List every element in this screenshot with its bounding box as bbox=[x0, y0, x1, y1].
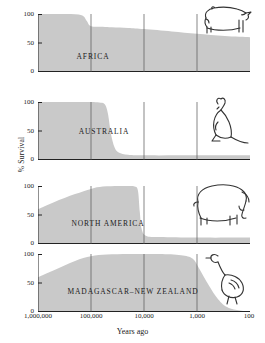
ytick-label-50: 50 bbox=[12, 127, 34, 135]
xtick-label-10000: 10,000 bbox=[134, 312, 153, 320]
ytick-label-0: 0 bbox=[12, 239, 34, 247]
ytick-label-100: 100 bbox=[12, 250, 34, 258]
ytick-label-100: 100 bbox=[12, 10, 34, 18]
xtick-label-1000: 1,000 bbox=[189, 312, 205, 320]
region-label-australia: AUSTRALIA bbox=[79, 127, 130, 136]
xtick-label-100: 100 bbox=[244, 312, 255, 320]
xtick-label-100000: 100,000 bbox=[80, 312, 103, 320]
ytick-label-50: 50 bbox=[12, 211, 34, 219]
ytick-label-0: 0 bbox=[12, 155, 34, 163]
region-label-africa: AFRICA bbox=[77, 52, 110, 61]
rhinoceros-icon bbox=[196, 2, 254, 40]
xtick-label-1000000: 1,000,000 bbox=[24, 312, 52, 320]
x-axis-label: Years ago bbox=[0, 327, 265, 336]
moa-icon bbox=[202, 250, 254, 310]
region-label-north-america: NORTH AMERICA bbox=[71, 219, 144, 228]
ytick-label-50: 50 bbox=[12, 39, 34, 47]
ytick-label-100: 100 bbox=[12, 98, 34, 106]
megafauna-survival-figure: % Survival 100 50 0 AFRICA 100 bbox=[0, 0, 265, 343]
region-label-madagascar-new-zealand: MADAGASCAR–NEW ZEALAND bbox=[67, 287, 198, 296]
kangaroo-icon bbox=[200, 96, 252, 152]
ytick-label-100: 100 bbox=[12, 182, 34, 190]
ytick-label-50: 50 bbox=[12, 279, 34, 287]
ytick-label-0: 0 bbox=[12, 67, 34, 75]
mammoth-icon bbox=[190, 180, 254, 234]
